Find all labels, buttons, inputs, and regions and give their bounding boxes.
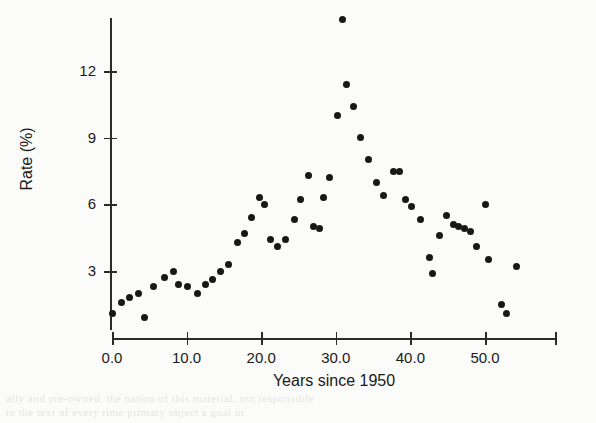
data-point — [256, 194, 263, 201]
data-point — [297, 196, 304, 203]
data-point — [194, 290, 201, 297]
data-point — [467, 228, 474, 235]
data-point — [217, 268, 224, 275]
x-tick-axis-end — [555, 332, 557, 345]
data-point — [396, 168, 403, 175]
data-point — [202, 281, 209, 288]
data-point — [241, 230, 248, 237]
y-tick-label-6: 6 — [56, 195, 96, 212]
data-point — [274, 243, 281, 250]
x-tick-label-40.0: 40.0 — [383, 349, 437, 366]
x-tick-label-10.0: 10.0 — [160, 349, 214, 366]
data-point — [498, 301, 505, 308]
y-axis-title: Rate (%) — [18, 104, 36, 214]
data-point — [485, 256, 492, 263]
x-tick-50.0 — [485, 332, 487, 345]
data-point — [350, 103, 357, 110]
x-tick-label-0.0: 0.0 — [85, 349, 139, 366]
y-tick-12 — [104, 71, 117, 73]
y-tick-label-9: 9 — [56, 129, 96, 146]
data-point — [161, 274, 168, 281]
data-point — [126, 294, 133, 301]
data-point — [482, 201, 489, 208]
x-tick-label-30.0: 30.0 — [309, 349, 363, 366]
data-point — [282, 236, 289, 243]
data-point — [118, 299, 125, 306]
data-point — [209, 276, 216, 283]
data-point — [365, 156, 372, 163]
data-point — [443, 212, 450, 219]
data-point — [326, 174, 333, 181]
data-point — [225, 261, 232, 268]
x-tick-30.0 — [336, 332, 338, 345]
x-tick-20.0 — [261, 332, 263, 345]
data-point — [316, 225, 323, 232]
data-point — [320, 194, 327, 201]
y-tick-9 — [104, 138, 117, 140]
data-point — [339, 16, 346, 23]
data-point — [373, 179, 380, 186]
data-point — [184, 283, 191, 290]
x-tick-label-50.0: 50.0 — [458, 349, 512, 366]
data-point — [503, 310, 510, 317]
data-point — [234, 239, 241, 246]
y-tick-3 — [104, 271, 117, 273]
data-point — [436, 232, 443, 239]
x-axis-line — [112, 338, 556, 340]
data-point — [429, 270, 436, 277]
x-tick-40.0 — [410, 332, 412, 345]
data-point — [135, 290, 142, 297]
data-point — [261, 201, 268, 208]
scatter-plot: 36912 0.010.020.030.040.050.0 Rate (%) Y… — [0, 0, 596, 423]
x-axis-title: Years since 1950 — [112, 372, 556, 390]
data-point — [141, 314, 148, 321]
data-point — [334, 112, 341, 119]
data-point — [305, 172, 312, 179]
data-point — [170, 268, 177, 275]
data-point — [175, 281, 182, 288]
data-point — [408, 203, 415, 210]
data-point — [473, 243, 480, 250]
x-tick-label-20.0: 20.0 — [234, 349, 288, 366]
data-point — [343, 81, 350, 88]
x-tick-10.0 — [187, 332, 189, 345]
y-tick-label-3: 3 — [56, 262, 96, 279]
data-point — [109, 310, 116, 317]
data-point — [150, 283, 157, 290]
x-tick-0.0 — [112, 332, 114, 345]
data-point — [357, 134, 364, 141]
data-point — [402, 196, 409, 203]
data-point — [513, 263, 520, 270]
data-point — [426, 254, 433, 261]
data-point — [291, 216, 298, 223]
y-tick-6 — [104, 204, 117, 206]
data-point — [417, 216, 424, 223]
data-point — [248, 214, 255, 221]
data-point — [380, 192, 387, 199]
data-point — [267, 236, 274, 243]
y-tick-label-12: 12 — [56, 62, 96, 79]
y-axis-line — [110, 18, 112, 330]
